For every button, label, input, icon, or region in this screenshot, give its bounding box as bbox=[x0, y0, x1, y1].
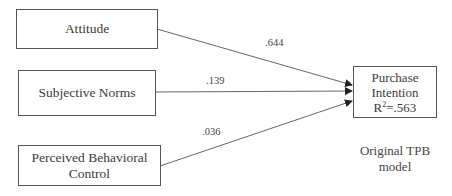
arrow-attitude-to-intention bbox=[157, 29, 352, 85]
node-pbc-label-line1: Perceived Behavioral bbox=[32, 150, 148, 166]
node-attitude-label: Attitude bbox=[65, 21, 109, 37]
node-pbc-label-line2: Control bbox=[69, 166, 110, 182]
node-intention-label-line1: Purchase bbox=[372, 70, 419, 85]
arrow-pbc-to-intention bbox=[160, 101, 352, 166]
node-subjective-norms-label: Subjective Norms bbox=[38, 85, 135, 101]
caption-line1: Original TPB bbox=[355, 143, 435, 159]
caption-line2: model bbox=[355, 159, 435, 175]
arrow-norms-to-intention bbox=[155, 91, 352, 92]
node-attitude: Attitude bbox=[16, 9, 158, 49]
r-squared-value: =.563 bbox=[386, 100, 416, 115]
node-perceived-behavioral-control: Perceived Behavioral Control bbox=[18, 145, 161, 186]
node-purchase-intention: Purchase Intention R2=.563 bbox=[353, 66, 437, 118]
coef-pbc: .036 bbox=[202, 126, 220, 137]
r-squared: R2=.563 bbox=[374, 100, 417, 115]
coef-subjective-norms: .139 bbox=[206, 75, 224, 86]
coef-attitude: .644 bbox=[265, 37, 283, 48]
node-subjective-norms: Subjective Norms bbox=[18, 70, 156, 116]
node-intention-label-line2: Intention bbox=[372, 85, 419, 100]
r-squared-prefix: R bbox=[374, 100, 383, 115]
model-caption: Original TPB model bbox=[355, 143, 435, 175]
